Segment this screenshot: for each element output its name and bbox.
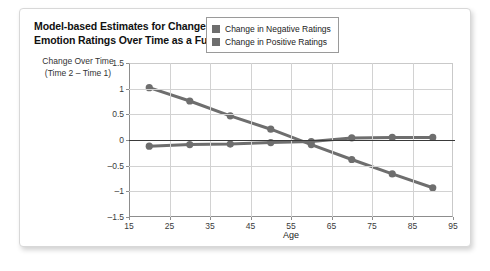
data-point-marker (348, 156, 355, 163)
x-tick-mark (170, 217, 171, 220)
data-point-marker (186, 141, 193, 148)
y-gridline (129, 114, 453, 115)
legend-item-negative: Change in Negative Ratings (212, 22, 331, 35)
y-tick-label: 1.5 (94, 58, 124, 68)
y-tick-label: –1.5 (94, 212, 124, 222)
x-tick-mark (453, 217, 454, 220)
y-tick-label: –0.5 (94, 161, 124, 171)
y-gridline (129, 166, 453, 167)
legend-label-negative: Change in Negative Ratings (225, 24, 331, 34)
figure-root: Model-based Estimates for Change in Posi… (0, 0, 490, 271)
y-tick-label: –1 (94, 186, 124, 196)
y-tick-mark (126, 89, 129, 90)
y-gridline (129, 191, 453, 192)
y-gridline (129, 89, 453, 90)
chart-legend: Change in Negative Ratings Change in Pos… (206, 17, 339, 53)
legend-swatch-negative-icon (212, 25, 220, 33)
y-tick-mark (126, 217, 129, 218)
x-tick-mark (413, 217, 414, 220)
x-tick-mark (372, 217, 373, 220)
x-axis-title: Age (129, 230, 453, 240)
x-tick-mark (210, 217, 211, 220)
data-point-marker (227, 141, 234, 148)
legend-item-positive: Change in Positive Ratings (212, 35, 331, 48)
data-point-marker (186, 97, 193, 104)
legend-label-positive: Change in Positive Ratings (225, 37, 327, 47)
x-tick-mark (251, 217, 252, 220)
plot-area: 1525354555657585951.510.50–0.5–1–1.5 (129, 63, 453, 217)
data-point-marker (146, 84, 153, 91)
y-axis-title-line-2: (Time 2 – Time 1) (26, 67, 130, 79)
data-point-marker (429, 184, 436, 191)
data-point-marker (389, 170, 396, 177)
x-tick-mark (291, 217, 292, 220)
data-point-marker (146, 143, 153, 150)
data-point-marker (267, 126, 274, 133)
y-tick-label: 1 (94, 84, 124, 94)
x-tick-mark (129, 217, 130, 220)
y-tick-mark (126, 191, 129, 192)
legend-swatch-positive-icon (212, 38, 220, 46)
y-tick-mark (126, 166, 129, 167)
y-tick-mark (126, 63, 129, 64)
y-tick-label: 0 (94, 135, 124, 145)
zero-reference-line (129, 140, 455, 141)
y-tick-label: 0.5 (94, 109, 124, 119)
figure-card: Model-based Estimates for Change in Posi… (19, 8, 471, 247)
y-tick-mark (126, 114, 129, 115)
x-tick-mark (332, 217, 333, 220)
